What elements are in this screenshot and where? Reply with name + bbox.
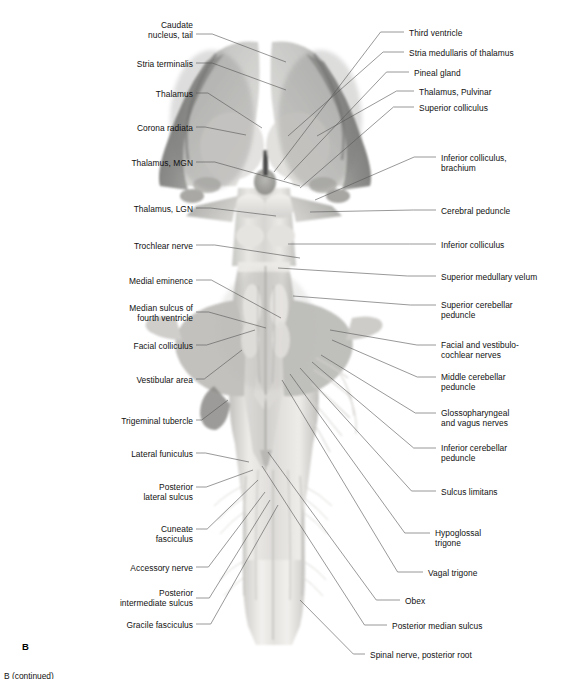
label-vagal-trigone: Vagal trigone: [428, 568, 567, 578]
label-inferior-colliculus: Inferior colliculus: [441, 240, 567, 250]
label-stria-medullaris-of-thalamus: Stria medullaris of thalamus: [409, 48, 567, 58]
leader-superior-cerebellar-peduncle: [293, 296, 436, 305]
label-cerebral-peduncle: Cerebral peduncle: [441, 206, 567, 216]
panel-letter: B: [22, 641, 29, 652]
label-third-ventricle: Third ventricle: [409, 28, 567, 38]
label-posterior-intermediate-sulcus: Posterior intermediate sulcus: [55, 588, 193, 608]
label-thalamus-pulvinar: Thalamus, Pulvinar: [419, 87, 567, 97]
label-cuneate-fasciculus: Cuneate fasciculus: [50, 524, 193, 544]
label-inferior-cerebellar-peduncle: Inferior cerebellar peduncle: [441, 443, 567, 463]
label-spinal-nerve-posterior-root: Spinal nerve, posterior root: [370, 650, 567, 660]
right-lgn: [326, 189, 350, 203]
label-stria-terminalis: Stria terminalis: [55, 59, 193, 69]
label-thalamus-mgn: Thalamus, MGN: [35, 158, 193, 168]
label-thalamus-lgn: Thalamus, LGN: [35, 204, 193, 214]
figure-caption-partial: B (continued): [4, 671, 204, 679]
label-median-sulcus-fourth-ventricle: Median sulcus of fourth ventricle: [22, 303, 193, 323]
label-facial-and-vestibulocochlear-nerves: Facial and vestibulo- cochlear nerves: [441, 340, 567, 360]
label-trochlear-nerve: Trochlear nerve: [30, 241, 193, 251]
leader-spinal-nerve-posterior-root: [300, 600, 365, 654]
label-vestibular-area: Vestibular area: [30, 375, 193, 385]
label-sulcus-limitans: Sulcus limitans: [441, 487, 567, 497]
label-medial-eminence: Medial eminence: [22, 276, 193, 286]
label-corona-radiata: Corona radiata: [45, 123, 193, 133]
label-gracile-fasciculus: Gracile fasciculus: [55, 620, 193, 630]
label-facial-colliculus: Facial colliculus: [28, 341, 193, 351]
label-superior-colliculus: Superior colliculus: [419, 103, 567, 113]
label-glossopharyngeal-and-vagus-nerves: Glossopharyngeal and vagus nerves: [441, 408, 567, 428]
label-superior-medullary-velum: Superior medullary velum: [441, 272, 567, 282]
label-inferior-colliculus-brachium: Inferior colliculus, brachium: [441, 153, 567, 173]
leader-superior-medullary-velum: [278, 268, 436, 276]
inferior-colliculus-left: [236, 225, 264, 247]
label-lateral-funiculus: Lateral funiculus: [28, 449, 193, 459]
label-superior-cerebellar-peduncle: Superior cerebellar peduncle: [441, 300, 567, 320]
label-pineal-gland: Pineal gland: [414, 68, 567, 78]
label-posterior-median-sulcus: Posterior median sulcus: [392, 621, 567, 631]
label-accessory-nerve: Accessory nerve: [50, 563, 193, 573]
label-thalamus: Thalamus: [55, 89, 193, 99]
label-trigeminal-tubercle: Trigeminal tubercle: [20, 416, 193, 426]
left-lgn: [180, 189, 204, 203]
label-caudate-nucleus-tail: Caudate nucleus, tail: [75, 20, 193, 40]
label-posterior-lateral-sulcus: Posterior lateral sulcus: [38, 482, 193, 502]
label-obex: Obex: [405, 596, 567, 606]
right-lateral-flap: [346, 316, 383, 340]
label-hypoglossal-trigone: Hypoglossal trigone: [435, 528, 567, 548]
label-middle-cerebellar-peduncle: Middle cerebellar peduncle: [441, 372, 567, 392]
